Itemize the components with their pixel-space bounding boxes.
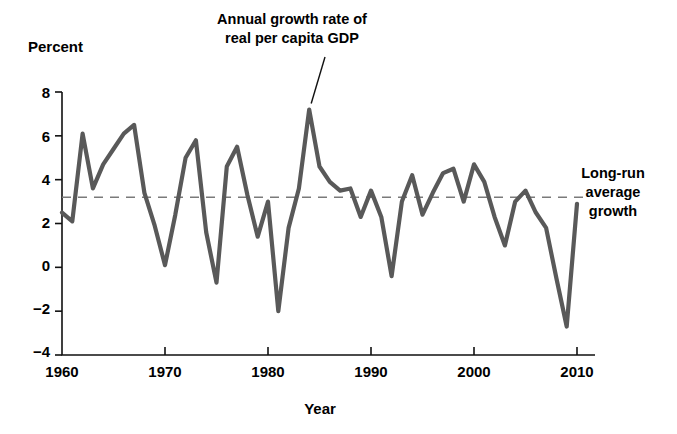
y-tick-label-4: 4 (42, 171, 51, 188)
average-annotation-line3: growth (589, 203, 637, 219)
y-tick-label-2: 2 (42, 214, 50, 231)
x-tick-label-1990: 1990 (354, 363, 387, 380)
x-tick-label-1960: 1960 (45, 363, 78, 380)
x-tick-label-1980: 1980 (251, 363, 284, 380)
annotation-leader-line (311, 57, 325, 104)
y-tick-label-minus4: −4 (33, 343, 51, 360)
axis-spines (62, 92, 595, 355)
series-annotation-line1: Annual growth rate of (217, 11, 367, 27)
y-tick-label-8: 8 (42, 84, 50, 101)
x-axis-title: Year (304, 400, 336, 417)
x-tick-label-1970: 1970 (148, 363, 181, 380)
y-axis-title: Percent (28, 38, 83, 55)
average-annotation-line2: average (586, 184, 641, 200)
gdp-growth-chart: Percent 8 6 4 2 0 −2 −4 1960 1970 1980 1… (0, 0, 677, 434)
gdp-growth-series-line (62, 110, 577, 327)
y-tick-label-6: 6 (42, 128, 50, 145)
x-tick-label-2000: 2000 (457, 363, 490, 380)
series-annotation-line2: real per capita GDP (225, 30, 359, 46)
x-tick-label-2010: 2010 (560, 363, 593, 380)
average-annotation-line1: Long-run (581, 165, 645, 181)
y-tick-label-minus2: −2 (33, 300, 50, 317)
y-tick-label-0: 0 (42, 257, 50, 274)
